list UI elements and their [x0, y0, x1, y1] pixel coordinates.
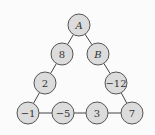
node-label: −1 — [21, 108, 36, 119]
edge-n2-n-1 — [33, 93, 39, 104]
edge-B-n-12 — [104, 63, 110, 73]
edge-n-12-n7 — [121, 93, 127, 104]
node-n3: 3 — [86, 102, 108, 124]
node-B: B — [87, 43, 109, 65]
diagram-canvas: A8B2−12−1−537 — [0, 0, 155, 135]
node-n-5: −5 — [52, 102, 74, 124]
node-label: −5 — [56, 108, 71, 119]
node-n-1: −1 — [17, 102, 39, 124]
node-label: B — [93, 49, 101, 60]
node-label: −12 — [105, 78, 126, 89]
node-n8: 8 — [51, 43, 73, 65]
node-A: A — [68, 14, 90, 36]
edge-A-B — [85, 34, 92, 45]
node-label: 7 — [129, 108, 135, 119]
node-label: 2 — [42, 78, 48, 89]
edge-A-n8 — [68, 34, 74, 44]
edge-n8-n2 — [51, 63, 57, 73]
node-label: 3 — [94, 108, 100, 119]
number-triangle-diagram: A8B2−12−1−537 — [0, 0, 155, 135]
node-label: A — [74, 20, 82, 31]
node-n2: 2 — [34, 72, 56, 94]
node-n-12: −12 — [105, 72, 127, 94]
node-n7: 7 — [121, 102, 143, 124]
node-label: 8 — [59, 49, 65, 60]
